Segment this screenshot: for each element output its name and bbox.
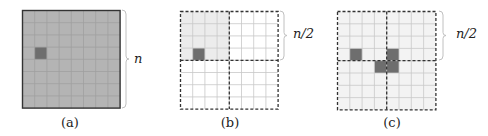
brace-icon [439, 11, 446, 60]
panel-c: n/2 (c) [320, 0, 488, 136]
highlighted-cell [374, 61, 386, 73]
brace-label-a: n [134, 51, 142, 66]
highlighted-cell [193, 48, 205, 60]
highlighted-cell [350, 48, 362, 60]
caption-c: (c) [362, 115, 422, 130]
brace-label-c: n/2 [456, 26, 477, 41]
highlighted-cell [35, 47, 47, 59]
highlighted-cell [387, 61, 399, 73]
caption-a: (a) [40, 115, 100, 130]
panel-b: n/2 (b) [160, 0, 320, 136]
highlighted-cell [387, 48, 399, 60]
brace-icon [122, 10, 129, 108]
brace-icon [280, 11, 287, 60]
caption-b: (b) [200, 115, 260, 130]
brace-label-b: n/2 [293, 26, 314, 41]
panel-a: n (a) [0, 0, 160, 136]
